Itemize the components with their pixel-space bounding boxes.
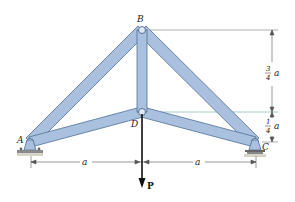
joint-label-b: B [136,14,144,24]
dim-upper-num: 3 [266,65,271,73]
dim-upper-den: 4 [265,74,270,82]
dim-lower-den: 4 [265,127,270,135]
dim-right-span: a [195,157,200,167]
dim-lower-var: a [274,121,279,131]
joint-label-a: A [16,135,24,145]
joint-label-c: C [262,142,269,152]
dim-upper-var: a [274,68,279,78]
horizontal-dimension [31,156,256,168]
load-label-p: P [147,181,154,191]
pin-b [139,27,146,34]
truss-diagram: 3 4 a 1 4 a a a P B D A C [0,0,295,202]
joint-label-d: D [130,119,138,129]
dim-lower-num: 1 [266,118,270,126]
load-arrow-p [139,114,146,188]
dim-left-span: a [82,157,87,167]
member-bd [137,30,147,112]
